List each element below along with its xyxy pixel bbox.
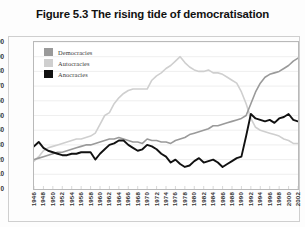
legend-label: Democracies [58,49,92,56]
legend-swatch-anocracies [44,70,53,78]
x-tick-label: 1966 [125,192,131,206]
y-tick-label: 10 [0,171,4,177]
x-tick-label: 1984 [210,192,216,206]
legend-swatch-autocracies [44,59,53,67]
legend-item: Democracies [44,48,92,56]
y-tick-label: 0 [0,186,4,192]
x-tick-label: 1964 [116,192,122,206]
x-tick-label: 1960 [97,192,103,206]
y-tick-label: 90 [0,54,4,60]
x-tick-label: 1962 [106,192,112,206]
y-tick-label: 30 [0,142,4,148]
chart-legend: DemocraciesAutocraciesAnocracies [44,48,92,78]
x-tick-label: 1988 [229,192,235,206]
x-tick-label: 1956 [78,192,84,206]
x-tick-label: 2000 [286,192,292,206]
x-tick-label: 1992 [248,192,254,206]
x-tick-label: 1978 [182,192,188,206]
x-tick-label: 1976 [172,192,178,206]
x-tick-label: 1982 [201,192,207,206]
y-tick-label: 60 [0,98,4,104]
x-tick-label: 1952 [59,192,65,206]
legend-item: Anocracies [44,70,92,78]
x-tick-label: 1994 [257,192,263,206]
x-tick-label: 1950 [50,192,56,206]
legend-swatch-democracies [44,48,53,56]
x-tick-label: 1948 [40,192,46,206]
legend-label: Autocracies [58,60,90,67]
x-tick-label: 1946 [31,192,37,206]
y-tick-label: 80 [0,68,4,74]
x-tick-label: 1954 [69,192,75,206]
y-tick-label: 40 [0,127,4,133]
x-tick-label: 1996 [267,192,273,206]
x-tick-label: 1980 [191,192,197,206]
y-tick-label: 100 [0,39,4,45]
legend-label: Anocracies [58,71,88,78]
y-tick-label: 20 [0,157,4,163]
x-tick-label: 1986 [220,192,226,206]
y-tick-label: 50 [0,113,4,119]
figure-container: Figure 5.3 The rising tide of democratis… [0,0,305,227]
x-tick-label: 1974 [163,192,169,206]
x-tick-label: 1970 [144,192,150,206]
x-tick-label: 2002 [295,192,301,206]
x-tick-label: 1990 [238,192,244,206]
x-tick-label: 1972 [154,192,160,206]
legend-item: Autocracies [44,59,92,67]
x-tick-label: 1958 [88,192,94,206]
x-tick-label: 1998 [276,192,282,206]
y-tick-label: 70 [0,83,4,89]
x-tick-label: 1968 [135,192,141,206]
